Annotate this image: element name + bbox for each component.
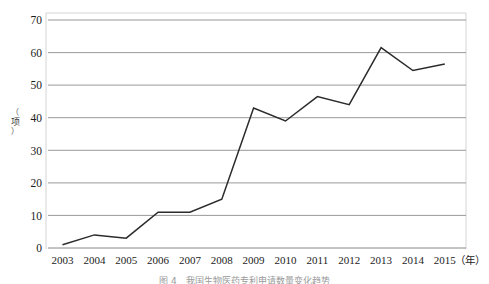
- x-tick-label: 2008: [211, 254, 234, 266]
- x-tick-label: 2005: [115, 254, 138, 266]
- x-tick-label: 2011: [307, 254, 329, 266]
- y-axis-tick-labels: 70 60 50 40 30 20 10 0: [31, 14, 43, 254]
- x-tick-label: 2006: [147, 254, 170, 266]
- figure-caption: 图 4 我国生物医药专利申请数量变化趋势: [0, 274, 489, 284]
- y-tick-label: 60: [31, 47, 43, 59]
- x-tick-label: 2004: [83, 254, 106, 266]
- x-tick-label: 2014: [402, 254, 425, 266]
- y-tick-label: 30: [31, 145, 43, 157]
- y-tick-label: 40: [31, 112, 43, 124]
- y-tick-label: 50: [31, 79, 43, 91]
- x-tick-label: 2009: [243, 254, 266, 266]
- x-tick-label: 2013: [370, 254, 393, 266]
- y-tick-label: 20: [31, 177, 43, 189]
- plot-frame: [46, 13, 466, 249]
- y-gridlines: [48, 20, 466, 248]
- figure-container: （ 项 ） 70 60 50 40 30 20 10 0: [0, 0, 489, 284]
- line-chart: 70 60 50 40 30 20 10 0 2003 2004 2005 20…: [0, 0, 489, 284]
- x-tick-label: 2010: [275, 254, 298, 266]
- x-tick-label: 2012: [338, 254, 360, 266]
- y-tick-label: 70: [31, 14, 43, 26]
- y-tick-label: 0: [36, 242, 42, 254]
- x-tick-label: 2003: [52, 254, 75, 266]
- y-tick-label: 10: [31, 210, 43, 222]
- x-axis-tick-labels: 2003 2004 2005 2006 2007 2008 2009 2010 …: [52, 254, 486, 266]
- x-tick-label: 2007: [179, 254, 202, 266]
- x-tick-label: 2015: [434, 254, 457, 266]
- x-axis-unit-label: （年）: [455, 254, 485, 266]
